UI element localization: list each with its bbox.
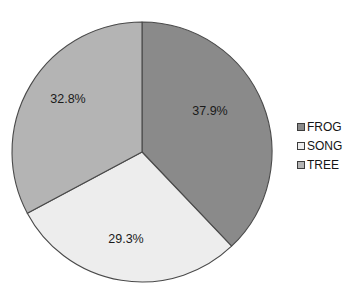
legend-item-label: TREE xyxy=(307,159,339,171)
legend-swatch-icon-frog xyxy=(297,123,305,131)
pie-slice-label-song: 29.3% xyxy=(108,232,143,246)
pie-slice-label-frog: 37.9% xyxy=(192,104,227,118)
legend-item-song[interactable]: SONG xyxy=(297,136,363,155)
legend-item-label: SONG xyxy=(307,140,342,152)
pie-chart: 37.9%29.3%32.8% FROGSONGTREE xyxy=(0,0,364,297)
legend-item-frog[interactable]: FROG xyxy=(297,117,363,136)
legend-item-tree[interactable]: TREE xyxy=(297,155,363,174)
chart-legend: FROGSONGTREE xyxy=(297,117,363,174)
legend-item-label: FROG xyxy=(307,121,342,133)
pie-slice-label-tree: 32.8% xyxy=(50,92,85,106)
legend-swatch-icon-tree xyxy=(297,161,305,169)
legend-swatch-icon-song xyxy=(297,142,305,150)
